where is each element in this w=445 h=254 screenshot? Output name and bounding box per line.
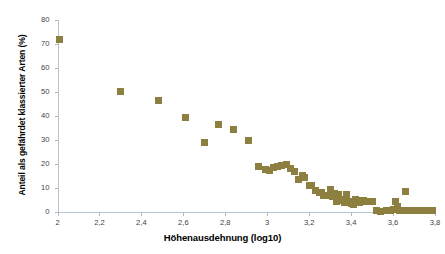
data-point: [343, 191, 350, 198]
data-point: [155, 97, 162, 104]
x-tick-label: 2,8: [213, 219, 237, 227]
x-tick-label: 3,8: [423, 219, 445, 227]
x-tick-label: 3,2: [297, 219, 321, 227]
data-point: [201, 139, 208, 146]
x-tick-mark: [99, 213, 100, 216]
y-axis-title: Anteil als gefährdet klassierter Arten (…: [17, 15, 27, 215]
data-point: [245, 137, 252, 144]
x-tick-label: 3,4: [339, 219, 363, 227]
y-tick-label: 60: [28, 64, 50, 72]
x-tick-mark: [141, 213, 142, 216]
y-tick-mark: [55, 44, 58, 45]
x-tick-mark: [351, 213, 352, 216]
data-point: [182, 114, 189, 121]
y-tick-label: 0: [28, 208, 50, 216]
y-tick-label: 50: [28, 88, 50, 96]
y-tick-label: 10: [28, 184, 50, 192]
x-tick-label: 2,4: [129, 219, 153, 227]
y-tick-label: 40: [28, 112, 50, 120]
x-tick-mark: [225, 213, 226, 216]
data-point: [429, 207, 436, 214]
y-tick-mark: [55, 20, 58, 21]
y-tick-label: 30: [28, 136, 50, 144]
data-point: [117, 88, 124, 95]
y-tick-label: 70: [28, 40, 50, 48]
y-axis-line: [58, 20, 59, 213]
x-tick-label: 3,6: [381, 219, 405, 227]
data-point: [369, 198, 376, 205]
y-tick-mark: [55, 140, 58, 141]
y-tick-mark: [55, 92, 58, 93]
x-tick-mark: [183, 213, 184, 216]
data-point: [215, 121, 222, 128]
data-point: [291, 168, 298, 175]
x-tick-mark: [309, 213, 310, 216]
data-point: [230, 126, 237, 133]
x-tick-label: 3: [255, 219, 279, 227]
y-tick-mark: [55, 68, 58, 69]
scatter-chart: 01020304050607080 22,22,42,62,833,23,43,…: [0, 0, 445, 254]
data-point: [56, 36, 63, 43]
x-tick-label: 2: [46, 219, 70, 227]
x-tick-mark: [267, 213, 268, 216]
data-point: [301, 174, 308, 181]
x-tick-label: 2,2: [87, 219, 111, 227]
x-axis-title: Höhenausdehnung (log10): [0, 232, 445, 243]
y-tick-mark: [55, 164, 58, 165]
y-tick-mark: [55, 188, 58, 189]
y-tick-mark: [55, 116, 58, 117]
y-tick-label: 80: [28, 16, 50, 24]
data-point: [402, 188, 409, 195]
x-tick-label: 2,6: [171, 219, 195, 227]
y-tick-label: 20: [28, 160, 50, 168]
x-tick-mark: [58, 213, 59, 216]
